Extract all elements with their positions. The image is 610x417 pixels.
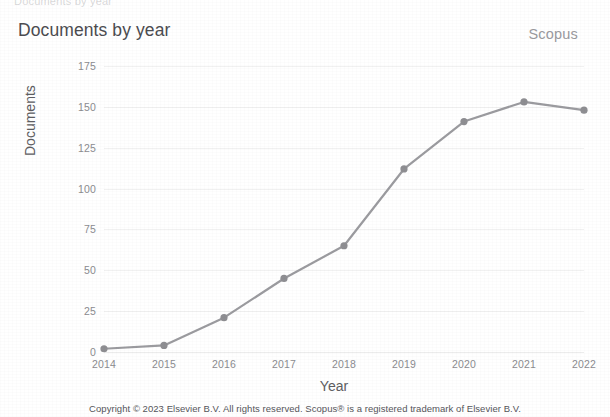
y-tick-label-0: 0: [50, 346, 96, 358]
y-tick-label-175: 175: [50, 60, 96, 72]
y-tick-label-125: 125: [50, 142, 96, 154]
y-tick-label-50: 50: [50, 264, 96, 276]
data-point-2017[interactable]: [280, 275, 287, 282]
x-tick-label-2014: 2014: [81, 358, 127, 370]
y-axis-tick-labels: 0255075100125150175: [50, 66, 96, 352]
x-tick-label-2020: 2020: [441, 358, 487, 370]
documents-line-series: [104, 66, 584, 352]
series-line: [104, 102, 584, 349]
y-tick-label-150: 150: [50, 101, 96, 113]
x-tick-label-2015: 2015: [141, 358, 187, 370]
data-point-2019[interactable]: [400, 165, 407, 172]
x-axis-title: Year: [0, 378, 610, 394]
x-tick-label-2018: 2018: [321, 358, 367, 370]
y-tick-label-100: 100: [50, 183, 96, 195]
data-point-2016[interactable]: [220, 314, 227, 321]
data-point-2014[interactable]: [100, 345, 107, 352]
x-axis-tick-labels: 201420152016201720182019202020212022: [104, 358, 584, 374]
data-point-2018[interactable]: [340, 242, 347, 249]
x-tick-label-2016: 2016: [201, 358, 247, 370]
data-point-2020[interactable]: [460, 118, 467, 125]
x-tick-label-2021: 2021: [501, 358, 547, 370]
gridline-y-0: [104, 352, 584, 353]
data-point-2021[interactable]: [520, 98, 527, 105]
x-tick-label-2022: 2022: [561, 358, 607, 370]
chart-container: 0255075100125150175 20142015201620172018…: [0, 0, 610, 417]
copyright-footer: Copyright © 2023 Elsevier B.V. All right…: [0, 403, 610, 414]
data-point-2015[interactable]: [160, 342, 167, 349]
x-tick-label-2019: 2019: [381, 358, 427, 370]
y-tick-label-25: 25: [50, 305, 96, 317]
x-tick-label-2017: 2017: [261, 358, 307, 370]
y-axis-title: Documents: [22, 85, 38, 156]
y-tick-label-75: 75: [50, 223, 96, 235]
data-point-2022[interactable]: [580, 107, 587, 114]
